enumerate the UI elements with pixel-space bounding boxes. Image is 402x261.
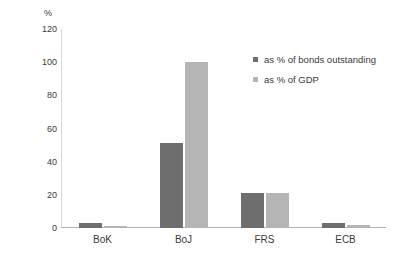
- x-axis-category-labels: BoKBoJFRSECB: [62, 234, 386, 252]
- y-axis-tick: 0: [0, 224, 57, 233]
- y-axis-tick: 100: [0, 58, 57, 67]
- y-axis-tick: 20: [0, 190, 57, 199]
- y-axis-tick-labels: 120100806040200: [0, 29, 57, 228]
- legend-item: as % of bonds outstanding: [253, 54, 399, 65]
- x-axis-label-frs: FRS: [235, 234, 295, 246]
- legend-swatch-icon: [253, 77, 258, 82]
- legend-label: as % of bonds outstanding: [264, 54, 376, 65]
- bar-frs-series2: [266, 193, 289, 228]
- legend-swatch-icon: [253, 57, 258, 62]
- bar-ecb-series1: [322, 223, 345, 228]
- bar-boj-series1: [160, 143, 183, 228]
- y-axis-tick: 40: [0, 157, 57, 166]
- bar-chart: % 120100806040200 BoKBoJFRSECB as % of b…: [0, 0, 402, 261]
- legend-label: as % of GDP: [264, 74, 319, 85]
- y-axis-unit-label: %: [44, 8, 52, 18]
- bar-bok-series1: [79, 223, 102, 228]
- legend-item: as % of GDP: [253, 74, 399, 85]
- x-axis-label-ecb: ECB: [316, 234, 376, 246]
- bar-group: [160, 29, 208, 228]
- x-axis-label-bok: BoK: [73, 234, 133, 246]
- y-axis-tick: 80: [0, 91, 57, 100]
- x-axis-label-boj: BoJ: [154, 234, 214, 246]
- bar-boj-series2: [185, 62, 208, 228]
- bar-frs-series1: [241, 193, 264, 228]
- bar-bok-series2: [104, 226, 127, 228]
- y-axis-tick: 120: [0, 25, 57, 34]
- y-axis-tick: 60: [0, 124, 57, 133]
- chart-legend: as % of bonds outstandingas % of GDP: [253, 54, 399, 94]
- bar-group: [79, 29, 127, 228]
- bar-ecb-series2: [347, 225, 370, 228]
